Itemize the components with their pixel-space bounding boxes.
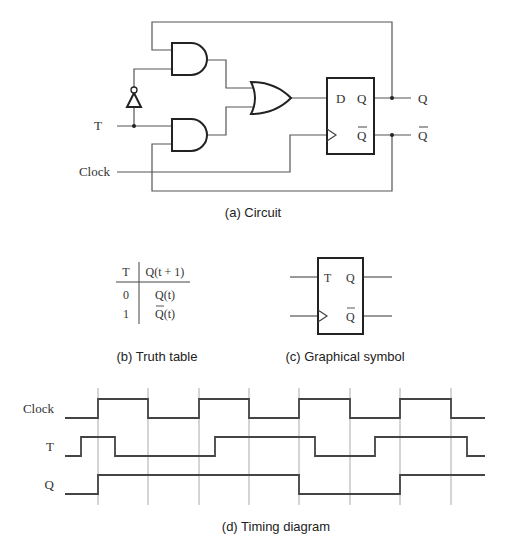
clock-wire [117, 135, 327, 172]
truth-table-row-1-t: 1 [123, 307, 129, 321]
q-signal-label: Q [45, 477, 55, 492]
lower-and-to-or-wire [207, 107, 254, 135]
lower-and-gate-icon [172, 119, 207, 151]
qbar-junction-dot [390, 133, 394, 137]
t-signal-label: T [46, 439, 54, 454]
or-gate-icon [251, 82, 291, 114]
timing-gridlines [98, 388, 451, 505]
qbar-output-label: Q [418, 128, 428, 143]
not-gate-bubble-icon [131, 87, 137, 93]
t-input-label: T [94, 118, 102, 133]
t-flip-flop-figure: D Q Q Q Q T Clock (a) Circuit T Q(t + 1)… [0, 0, 506, 554]
t-waveform [65, 437, 485, 456]
q-output-label: Q [418, 91, 428, 106]
clock-input-label: Clock [79, 164, 111, 179]
d-flip-flop-box [327, 78, 374, 154]
truth-table-caption: (b) Truth table [117, 349, 198, 364]
graphical-symbol-caption: (c) Graphical symbol [285, 349, 404, 364]
upper-and-gate-icon [172, 43, 207, 75]
t-flip-flop-symbol-box [318, 258, 363, 334]
truth-table-row-1-q: Q(t) [155, 307, 175, 321]
symbol-q-label: Q [346, 271, 355, 285]
q-waveform [65, 475, 485, 494]
symbol-qbar-label: Q [346, 310, 355, 324]
clock-signal-label: Clock [23, 401, 55, 416]
clock-waveform [65, 399, 485, 418]
inverter-output-wire [134, 69, 172, 88]
symbol-t-label: T [324, 271, 332, 285]
upper-and-to-or-wire [207, 60, 254, 88]
timing-diagram: Clock T Q (d) Timing diagram [23, 388, 485, 534]
q-pin-label: Q [357, 91, 367, 106]
timing-diagram-caption: (d) Timing diagram [222, 519, 330, 534]
d-pin-label: D [336, 91, 345, 106]
graphical-symbol: T Q Q (c) Graphical symbol [285, 258, 404, 364]
t-junction-dot [132, 124, 136, 128]
circuit: D Q Q Q Q T Clock (a) Circuit [79, 22, 428, 220]
truth-table-row-0-t: 0 [123, 288, 129, 302]
not-gate-icon [127, 93, 141, 107]
q-junction-dot [390, 96, 394, 100]
truth-table-header-next-q: Q(t + 1) [146, 265, 185, 279]
circuit-caption: (a) Circuit [225, 205, 282, 220]
truth-table-header-t: T [122, 265, 130, 279]
truth-table-row-0-q: Q(t) [155, 288, 175, 302]
qbar-pin-label: Q [357, 128, 367, 143]
truth-table: T Q(t + 1) 0 Q(t) 1 Q(t) (b) Truth table [116, 262, 197, 364]
